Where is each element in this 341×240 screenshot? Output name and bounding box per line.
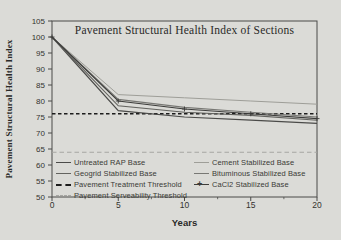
y-tick-label: 80: [0, 97, 45, 106]
legend-line-swatch-icon: [194, 158, 209, 167]
legend-right-column: Cement Stabilized BaseBituminous Stabili…: [194, 157, 305, 190]
y-tick-label: 100: [0, 33, 45, 42]
x-axis-label: Years: [52, 217, 317, 228]
legend-line-swatch-icon: [56, 158, 71, 167]
legend-line-swatch-icon: [56, 180, 71, 189]
x-tick-label: 5: [106, 201, 130, 210]
y-tick-label: 60: [0, 161, 45, 170]
legend-line-swatch-icon: +: [194, 180, 209, 189]
y-tick-label: 105: [0, 17, 45, 26]
legend-line-swatch-icon: [56, 191, 71, 200]
plus-marker-icon: +: [197, 180, 202, 189]
legend-line-sample: [56, 162, 71, 163]
x-tick-label: 20: [305, 201, 329, 210]
legend-label: Cement Stabilized Base: [212, 158, 294, 167]
x-tick-label: 10: [173, 201, 197, 210]
legend-item: Untreated RAP Base: [56, 157, 187, 168]
legend-label: Geogrid Stabilized Base: [74, 169, 157, 178]
legend-label: Bituminous Stabilized Base: [212, 169, 305, 178]
series-line-bituminous-stabilized-base: [52, 37, 317, 117]
legend-left-column: Untreated RAP BaseGeogrid Stabilized Bas…: [56, 157, 187, 201]
y-tick-label: 75: [0, 113, 45, 122]
series-line-cement-stabilized-base: [52, 37, 317, 104]
legend-item: Geogrid Stabilized Base: [56, 168, 187, 179]
legend-line-sample: [194, 162, 209, 163]
legend-item: Cement Stabilized Base: [194, 157, 305, 168]
y-tick-label: 70: [0, 129, 45, 138]
y-tick-label: 50: [0, 193, 45, 202]
legend-item: +CaCl2 Stabilized Base: [194, 179, 305, 190]
legend-item: Pavement Serveability Threshold: [56, 190, 187, 201]
legend-label: Untreated RAP Base: [74, 158, 145, 167]
legend-line-sample: [56, 195, 71, 196]
y-tick-label: 85: [0, 81, 45, 90]
legend-item: Bituminous Stabilized Base: [194, 168, 305, 179]
y-axis-label: Pavement Structural Health Index: [4, 39, 14, 178]
y-tick-label: 55: [0, 177, 45, 186]
y-tick-label: 65: [0, 145, 45, 154]
pavement-health-index-chart: Pavement Structural Health Index of Sect…: [0, 0, 341, 240]
legend-item: Pavement Treatment Threshold: [56, 179, 187, 190]
legend-line-sample: [56, 184, 71, 186]
legend-label: Pavement Serveability Threshold: [74, 191, 187, 200]
legend-line-swatch-icon: [194, 169, 209, 178]
y-tick-label: 90: [0, 65, 45, 74]
legend-line-swatch-icon: [56, 169, 71, 178]
legend-label: Pavement Treatment Threshold: [74, 180, 182, 189]
x-tick-label: 15: [239, 201, 263, 210]
x-tick-label: 0: [40, 201, 64, 210]
legend-line-sample: [56, 173, 71, 174]
legend-label: CaCl2 Stabilized Base: [212, 180, 289, 189]
legend-line-sample: [194, 173, 209, 174]
y-tick-label: 95: [0, 49, 45, 58]
chart-title: Pavement Structural Health Index of Sect…: [52, 24, 317, 36]
